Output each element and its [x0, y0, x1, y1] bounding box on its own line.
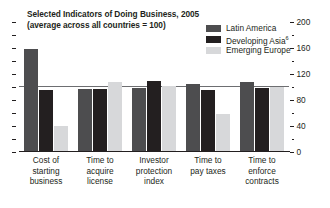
tick-mark-icon — [290, 126, 294, 127]
y-axis-tick: 80 — [290, 96, 306, 105]
x-axis-line — [19, 151, 290, 152]
tick-mark-icon — [290, 152, 294, 153]
tick-mark-icon — [292, 139, 295, 140]
y-axis-tick-label: 160 — [297, 44, 311, 53]
bar[interactable] — [162, 86, 176, 152]
y-axis-minor-tick — [290, 83, 298, 92]
y-axis-tick: 120 — [290, 70, 310, 79]
x-axis-label: Time to enforcecontracts — [235, 155, 289, 187]
bar[interactable] — [255, 88, 269, 152]
left-axis-tick — [12, 48, 16, 49]
y-axis-tick-label: 80 — [297, 96, 306, 105]
tick-mark-icon — [290, 48, 294, 49]
y-axis-minor-tick — [290, 57, 298, 66]
bar[interactable] — [240, 82, 254, 152]
y-axis-tick-label: 120 — [297, 70, 311, 79]
bar[interactable] — [201, 90, 215, 152]
y-axis-tick-label: 200 — [297, 18, 311, 27]
bar[interactable] — [216, 114, 230, 152]
x-axis-labels: Cost of startingbusinessTime toacquireli… — [19, 155, 290, 205]
y-axis-minor-tick — [290, 109, 298, 118]
left-axis-tick — [12, 152, 16, 153]
bar[interactable] — [78, 89, 92, 152]
y-axis-minor-tick — [290, 135, 298, 144]
x-axis-label-line: pay taxes — [181, 166, 235, 177]
x-axis-label-line: Cost of starting — [19, 155, 73, 176]
y-axis-tick: 0 — [290, 148, 301, 157]
tick-mark-icon — [292, 61, 295, 62]
x-axis-label: Time toacquirelicense — [73, 155, 127, 187]
x-axis-label: Time topay taxes — [181, 155, 235, 176]
tick-mark-icon — [290, 100, 294, 101]
left-axis-tick — [12, 74, 16, 75]
bar-group — [19, 22, 73, 152]
y-axis-tick-label: 0 — [297, 148, 302, 157]
bar-group — [235, 22, 289, 152]
chart-container: Selected Indicators of Doing Business, 2… — [0, 0, 330, 208]
y-axis-tick-label: 40 — [297, 122, 306, 131]
tick-mark-icon — [290, 74, 294, 75]
plot-area — [19, 22, 289, 152]
left-axis-tick — [12, 126, 16, 127]
bar-group — [73, 22, 127, 152]
x-axis-label-line: business — [19, 176, 73, 187]
left-axis-tick — [12, 22, 16, 23]
bar-group — [127, 22, 181, 152]
x-axis-label-line: index — [127, 176, 181, 187]
y-axis-tick: 200 — [290, 18, 310, 27]
tick-mark-icon — [292, 35, 295, 36]
tick-mark-icon — [292, 87, 295, 88]
x-axis-label: Investorprotectionindex — [127, 155, 181, 187]
tick-mark-icon — [292, 113, 295, 114]
y-axis-tick: 40 — [290, 122, 306, 131]
x-axis-label-line: contracts — [235, 176, 289, 187]
left-axis-tick — [12, 61, 16, 62]
left-axis-tick — [12, 35, 16, 36]
left-axis-tick — [12, 100, 16, 101]
x-axis-label-line: acquire — [73, 166, 127, 177]
x-axis-label-line: Time to — [73, 155, 127, 166]
bar[interactable] — [186, 84, 200, 152]
x-axis-label-line: Time to — [181, 155, 235, 166]
bar[interactable] — [108, 82, 122, 152]
left-axis-tick — [12, 113, 16, 114]
x-axis-label-line: Time to enforce — [235, 155, 289, 176]
y-axis: 04080120160200 — [290, 0, 330, 208]
x-axis-label-line: Investor — [127, 155, 181, 166]
chart-title-line-1: Selected Indicators of Doing Business, 2… — [27, 9, 227, 20]
y-axis-tick: 160 — [290, 44, 310, 53]
bar[interactable] — [93, 89, 107, 152]
bar[interactable] — [39, 90, 53, 152]
bar-group — [181, 22, 235, 152]
left-axis-tick — [12, 139, 16, 140]
x-axis-label-line: license — [73, 176, 127, 187]
x-axis-label-line: protection — [127, 166, 181, 177]
y-axis-minor-tick — [290, 31, 298, 40]
left-axis-tick — [12, 87, 16, 88]
bar[interactable] — [132, 88, 146, 152]
bar[interactable] — [147, 81, 161, 153]
x-axis-label: Cost of startingbusiness — [19, 155, 73, 187]
bar[interactable] — [54, 126, 68, 152]
bar[interactable] — [24, 49, 38, 152]
bar[interactable] — [270, 87, 284, 152]
tick-mark-icon — [290, 22, 294, 23]
